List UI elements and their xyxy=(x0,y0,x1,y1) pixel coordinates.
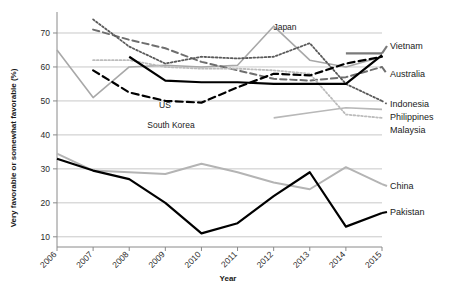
series-label-malaysia: Malaysia xyxy=(390,125,426,135)
us-annotation: US xyxy=(159,100,171,110)
label-connector xyxy=(382,212,387,213)
japan-annotation: Japan xyxy=(273,22,296,32)
chart-canvas: 10203040506070 2006200720082009201020112… xyxy=(0,0,452,285)
line-chart: 10203040506070 2006200720082009201020112… xyxy=(0,0,452,285)
x-axis-title: Year xyxy=(220,274,237,283)
series-label-philippines: Philippines xyxy=(390,112,434,122)
series-label-indonesia: Indonesia xyxy=(390,99,429,109)
y-tick-label: 50 xyxy=(41,96,51,106)
chart-background xyxy=(0,0,452,285)
y-tick-label: 40 xyxy=(41,130,51,140)
y-tick-label: 20 xyxy=(41,198,51,208)
south-korea-annotation: South Korea xyxy=(147,120,195,130)
series-label-australia: Australia xyxy=(390,69,425,79)
y-tick-label: 70 xyxy=(41,28,51,38)
y-tick-label: 10 xyxy=(41,232,51,242)
series-label-vietnam: Vietnam xyxy=(390,41,423,51)
series-label-pakistan: Pakistan xyxy=(390,207,425,217)
y-axis-title: Very favorable or somewhat favorable (%) xyxy=(9,68,18,227)
series-label-china: China xyxy=(390,181,414,191)
y-tick-label: 30 xyxy=(41,164,51,174)
y-tick-label: 60 xyxy=(41,62,51,72)
